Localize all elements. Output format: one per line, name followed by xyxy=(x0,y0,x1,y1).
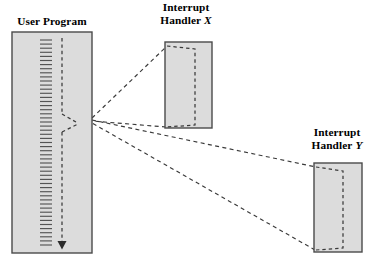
interrupt-handler-y-label: Interrupt Handler Y xyxy=(294,126,380,151)
handler-y-label-variable: Y xyxy=(355,139,362,151)
connector-to-handler-x-entry xyxy=(92,46,167,118)
handler-x-label-variable: X xyxy=(204,14,212,26)
handler-y-label-line2: Handler Y xyxy=(294,139,380,152)
diagram-canvas: User Program Interrupt Handler X Interru… xyxy=(0,0,383,269)
interrupt-handler-x-rect xyxy=(165,42,212,128)
handler-y-label-word: Handler xyxy=(312,139,353,151)
handler-x-label-line2: Handler X xyxy=(146,14,226,27)
user-program-label-text: User Program xyxy=(17,15,86,27)
interrupt-handler-x-label: Interrupt Handler X xyxy=(146,1,226,26)
interrupt-handler-y-rect xyxy=(314,163,362,252)
user-program-box xyxy=(12,32,92,253)
handler-x-label-line1: Interrupt xyxy=(146,1,226,14)
user-program-label: User Program xyxy=(0,15,104,28)
interrupt-handler-x-box xyxy=(165,42,212,128)
handler-y-label-line1: Interrupt xyxy=(294,126,380,139)
interrupt-handler-y-box xyxy=(314,163,362,252)
handler-x-label-word: Handler xyxy=(160,14,201,26)
connector-from-handler-y-return xyxy=(92,123,315,250)
